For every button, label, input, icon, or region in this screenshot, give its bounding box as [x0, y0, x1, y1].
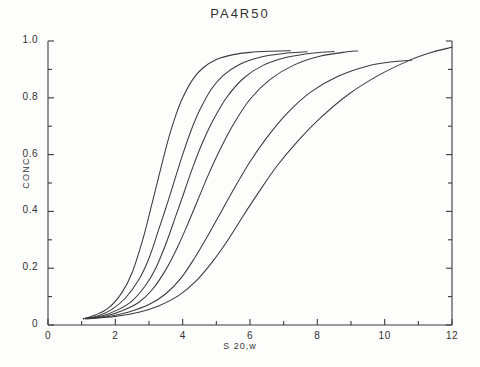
x-tick-label: 6	[238, 330, 262, 341]
plot-area	[0, 0, 480, 367]
y-tick-label: 0.2	[6, 261, 38, 272]
data-curve	[87, 47, 452, 319]
tick-marks	[48, 41, 452, 325]
x-tick-label: 8	[305, 330, 329, 341]
y-tick-label: 1.0	[6, 34, 38, 45]
curves-group	[83, 47, 452, 319]
data-curve	[85, 51, 358, 319]
data-curve	[85, 60, 412, 318]
y-tick-label: 0	[6, 318, 38, 329]
y-tick-label: 0.4	[6, 204, 38, 215]
x-tick-label: 10	[373, 330, 397, 341]
data-curve	[83, 52, 334, 319]
x-tick-label: 0	[36, 330, 60, 341]
data-curve	[83, 52, 307, 319]
y-tick-label: 0.8	[6, 91, 38, 102]
chart-figure: PA4R50 S 20,w CONC 00.20.40.60.81.002468…	[0, 0, 480, 367]
x-tick-label: 12	[440, 330, 464, 341]
x-tick-label: 2	[103, 330, 127, 341]
y-tick-label: 0.6	[6, 148, 38, 159]
axis-frame	[48, 41, 452, 325]
x-tick-label: 4	[171, 330, 195, 341]
